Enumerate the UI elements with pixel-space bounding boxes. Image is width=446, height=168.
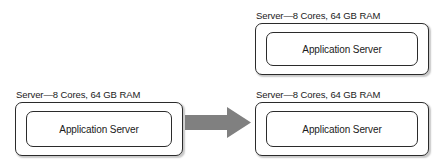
server-outer-box: Application Server — [255, 23, 429, 75]
server-label: Server—8 Cores, 64 GB RAM — [256, 10, 380, 21]
transition-arrow — [185, 106, 251, 139]
server-outer-box: Application Server — [255, 102, 429, 156]
server-group-left: Server—8 Cores, 64 GB RAM Application Se… — [15, 89, 183, 156]
application-server-label: Application Server — [302, 124, 381, 135]
server-label: Server—8 Cores, 64 GB RAM — [256, 89, 380, 100]
diagram-canvas: Server—8 Cores, 64 GB RAM Application Se… — [0, 0, 446, 168]
application-server-box: Application Server — [266, 111, 418, 147]
application-server-box: Application Server — [266, 32, 418, 66]
server-label: Server—8 Cores, 64 GB RAM — [16, 89, 140, 100]
server-group-bottom-right: Server—8 Cores, 64 GB RAM Application Se… — [255, 89, 429, 156]
server-group-top-right: Server—8 Cores, 64 GB RAM Application Se… — [255, 10, 429, 75]
server-outer-box: Application Server — [15, 102, 183, 156]
application-server-label: Application Server — [59, 124, 138, 135]
application-server-label: Application Server — [302, 44, 381, 55]
application-server-box: Application Server — [26, 111, 172, 147]
right-arrow-icon — [185, 106, 251, 139]
